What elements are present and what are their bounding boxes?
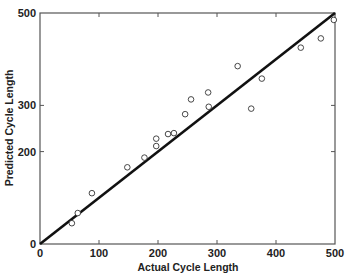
data-point xyxy=(188,97,194,103)
x-tick-label: 100 xyxy=(90,247,108,259)
data-points xyxy=(69,17,337,226)
data-point xyxy=(205,90,211,96)
data-point xyxy=(165,131,171,137)
data-point xyxy=(125,165,131,171)
data-point xyxy=(182,111,188,117)
data-point xyxy=(153,143,159,149)
identity-line xyxy=(40,13,335,244)
data-point xyxy=(331,17,337,23)
x-tick-label: 300 xyxy=(208,247,226,259)
y-tick-label: 0 xyxy=(30,238,36,250)
data-point xyxy=(259,76,265,82)
x-axis-title: Actual Cycle Length xyxy=(138,261,239,273)
y-tick-labels: 0200300500 xyxy=(18,7,36,250)
y-tick-label: 500 xyxy=(18,7,36,19)
y-tick-label: 300 xyxy=(18,99,36,111)
x-tick-label: 0 xyxy=(37,247,43,259)
data-point xyxy=(153,136,159,142)
identity-line-path xyxy=(40,13,335,244)
data-point xyxy=(171,130,177,136)
data-point xyxy=(75,210,81,216)
data-point xyxy=(69,220,75,226)
data-point xyxy=(235,63,241,69)
scatter-chart: 0100200300400500 0200300500 Actual Cycle… xyxy=(0,0,347,278)
x-tick-labels: 0100200300400500 xyxy=(37,247,344,259)
y-tick-label: 200 xyxy=(18,146,36,158)
data-point xyxy=(142,155,148,161)
x-tick-label: 400 xyxy=(267,247,285,259)
y-axis-title: Predicted Cycle Length xyxy=(3,70,15,187)
x-tick-label: 200 xyxy=(149,247,167,259)
data-point xyxy=(318,36,324,42)
data-point xyxy=(298,45,304,51)
data-point xyxy=(248,106,254,112)
data-point xyxy=(89,190,95,196)
x-tick-label: 500 xyxy=(326,247,344,259)
data-point xyxy=(206,104,212,110)
